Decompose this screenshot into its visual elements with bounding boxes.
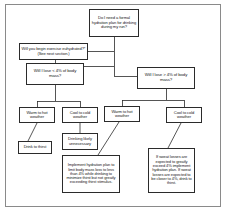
node-loss-greater-than-4[interactable]: Will I lose > 4% of body mass? — [137, 67, 195, 89]
node-cool-cold-left[interactable]: Cool to cold weather — [62, 107, 98, 123]
node-warm-hot-left[interactable]: Warm to hot weather — [19, 107, 55, 123]
node-root-question-label: Do I need a formal hydration plan for dr… — [90, 16, 138, 29]
node-cool-cold-left-label: Cool to cold weather — [63, 111, 97, 120]
node-euhydrated-question-label: Will you begin exercise euhydrated?* (Se… — [20, 47, 87, 56]
node-warm-hot-right[interactable]: Warm to hot weather — [104, 106, 140, 122]
node-loss-less-than-4-label: Will I lose < 4% of body mass? — [27, 69, 83, 78]
node-warm-hot-left-label: Warm to hot weather — [20, 111, 54, 120]
node-loss-greater-than-4-label: Will I lose > 4% of body mass? — [138, 73, 194, 82]
node-sweat-losses-guidance-label: If sweat losses are expected to greatly … — [149, 155, 194, 185]
node-implement-hydration-plan[interactable]: Implement hydration plan to limit body m… — [62, 155, 120, 193]
node-warm-hot-right-label: Warm to hot weather — [105, 110, 139, 119]
node-drinking-unnecessary-label: Drinking likely unnecessary — [63, 137, 97, 146]
node-drink-to-thirst[interactable]: Drink to thirst — [18, 141, 52, 154]
flowchart-canvas: Do I need a formal hydration plan for dr… — [0, 0, 229, 214]
node-drinking-unnecessary[interactable]: Drinking likely unnecessary — [62, 133, 98, 150]
node-drink-to-thirst-label: Drink to thirst — [19, 145, 51, 149]
node-cool-cold-right-label: Cool to cold weather — [167, 111, 201, 120]
node-root-question[interactable]: Do I need a formal hydration plan for dr… — [89, 9, 139, 37]
node-implement-hydration-plan-label: Implement hydration plan to limit body m… — [63, 163, 119, 185]
node-cool-cold-right[interactable]: Cool to cold weather — [166, 107, 202, 123]
node-loss-less-than-4[interactable]: Will I lose < 4% of body mass? — [26, 63, 84, 85]
node-sweat-losses-guidance[interactable]: If sweat losses are expected to greatly … — [148, 148, 195, 193]
node-euhydrated-question[interactable]: Will you begin exercise euhydrated?* (Se… — [19, 43, 88, 60]
